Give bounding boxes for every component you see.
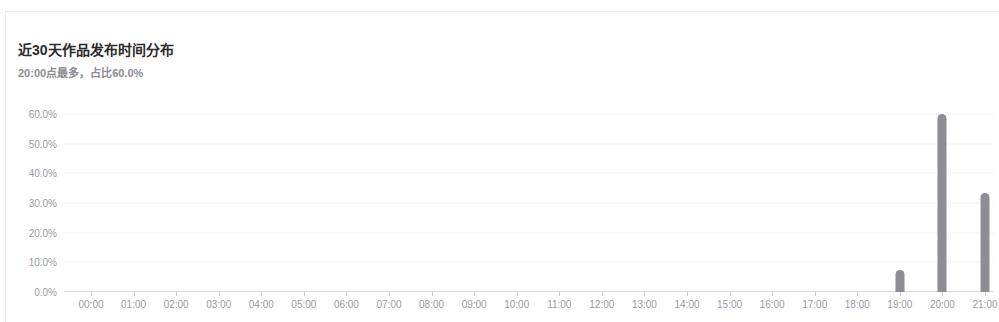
gridline — [64, 203, 993, 204]
gridline — [64, 143, 993, 144]
x-axis-tick-label: 16:00 — [760, 299, 785, 310]
x-axis-tick-mark — [517, 292, 518, 296]
x-axis-tick-label: 10:00 — [504, 299, 529, 310]
x-axis-tick-mark — [389, 292, 390, 296]
x-axis-tick-label: 08:00 — [419, 299, 444, 310]
x-axis-tick-mark — [134, 292, 135, 296]
x-axis-tick-label: 01:00 — [121, 299, 146, 310]
x-axis-tick-label: 04:00 — [249, 299, 274, 310]
x-axis-tick-label: 20:00 — [930, 299, 955, 310]
bar[interactable] — [938, 114, 947, 292]
gridline — [64, 262, 993, 263]
y-axis-tick-label: 20.0% — [29, 227, 57, 238]
x-axis-tick-label: 18:00 — [845, 299, 870, 310]
x-axis-tick-mark — [985, 292, 986, 296]
x-axis-tick-mark — [602, 292, 603, 296]
x-axis-tick-mark — [432, 292, 433, 296]
plot-canvas: 00:0001:0002:0003:0004:0005:0006:0007:00… — [64, 114, 993, 292]
gridline — [64, 173, 993, 174]
chart-plot-area: 00:0001:0002:0003:0004:0005:0006:0007:00… — [6, 12, 999, 322]
x-axis-tick-label: 00:00 — [78, 299, 103, 310]
x-axis-tick-label: 12:00 — [589, 299, 614, 310]
x-axis-tick-label: 21:00 — [972, 299, 997, 310]
x-axis-tick-mark — [176, 292, 177, 296]
y-axis-tick-label: 50.0% — [29, 138, 57, 149]
bar[interactable] — [981, 193, 990, 292]
bar[interactable] — [895, 270, 904, 292]
x-axis-tick-mark — [474, 292, 475, 296]
y-axis-tick-label: 10.0% — [29, 257, 57, 268]
chart-card: 近30天作品发布时间分布 20:00点最多，占比60.0% 00:0001:00… — [5, 11, 998, 322]
x-axis: 00:0001:0002:0003:0004:0005:0006:0007:00… — [64, 292, 993, 322]
x-axis-tick-label: 07:00 — [376, 299, 401, 310]
gridline — [64, 232, 993, 233]
x-axis-tick-label: 11:00 — [547, 299, 571, 310]
x-axis-tick-label: 17:00 — [802, 299, 827, 310]
x-axis-tick-label: 15:00 — [717, 299, 742, 310]
x-axis-tick-mark — [900, 292, 901, 296]
gridline — [64, 114, 993, 115]
x-axis-tick-mark — [857, 292, 858, 296]
x-axis-tick-mark — [304, 292, 305, 296]
x-axis-tick-label: 05:00 — [291, 299, 316, 310]
x-axis-tick-label: 13:00 — [632, 299, 657, 310]
x-axis-tick-mark — [772, 292, 773, 296]
x-axis-tick-mark — [559, 292, 560, 296]
x-axis-tick-label: 02:00 — [164, 299, 189, 310]
x-axis-tick-mark — [261, 292, 262, 296]
y-axis-tick-label: 60.0% — [29, 109, 57, 120]
x-axis-tick-mark — [942, 292, 943, 296]
x-axis-tick-mark — [346, 292, 347, 296]
x-axis-tick-label: 03:00 — [206, 299, 231, 310]
y-axis-tick-label: 0.0% — [34, 287, 57, 298]
y-axis-tick-label: 30.0% — [29, 198, 57, 209]
x-axis-tick-mark — [815, 292, 816, 296]
x-axis-tick-label: 19:00 — [887, 299, 912, 310]
x-axis-tick-mark — [219, 292, 220, 296]
y-axis-tick-label: 40.0% — [29, 168, 57, 179]
x-axis-tick-label: 14:00 — [674, 299, 699, 310]
x-axis-tick-mark — [644, 292, 645, 296]
x-axis-tick-mark — [91, 292, 92, 296]
x-axis-tick-label: 09:00 — [462, 299, 487, 310]
x-axis-tick-mark — [730, 292, 731, 296]
x-axis-tick-mark — [687, 292, 688, 296]
x-axis-tick-label: 06:00 — [334, 299, 359, 310]
